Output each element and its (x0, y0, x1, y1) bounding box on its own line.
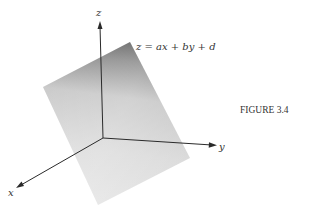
plane-highlight (43, 42, 190, 205)
z-arrowhead-icon (98, 21, 103, 29)
figure-caption: FIGURE 3.4 (240, 105, 289, 115)
z-axis-label: z (95, 7, 102, 18)
x-arrowhead-icon (16, 182, 24, 189)
plane-equation: z = ax + by + d (135, 41, 216, 52)
y-axis-label: y (218, 141, 225, 152)
plane (43, 42, 190, 205)
y-arrowhead-icon (209, 142, 217, 148)
figure-canvas: z y x z = ax + by + d FIGURE 3.4 (0, 0, 311, 208)
x-axis-label: x (8, 187, 14, 198)
